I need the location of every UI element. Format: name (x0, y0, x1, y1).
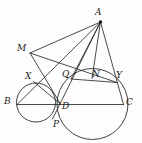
point-label-N: N (92, 70, 100, 79)
point-label-B: B (4, 97, 11, 106)
segment-MY (30, 53, 117, 83)
small-circle (17, 83, 56, 122)
point-label-P: P (53, 120, 59, 129)
segment-QY (71, 79, 117, 83)
point-label-Y: Y (116, 71, 122, 80)
segment-XD (34, 82, 61, 105)
segments-group (17, 22, 124, 119)
point-label-A: A (95, 8, 102, 17)
point-label-X: X (25, 72, 31, 81)
point-label-M: M (17, 44, 26, 53)
geometry-figure: AMXQNYBDCP (0, 0, 142, 143)
vertex-dot-A (99, 20, 102, 23)
segment-MD (30, 53, 61, 104)
point-label-D: D (62, 102, 69, 111)
vertex-dots-group (99, 20, 102, 23)
point-label-Q: Q (62, 70, 69, 79)
point-label-C: C (126, 98, 133, 107)
segment-AC (101, 22, 124, 105)
segment-AM (30, 22, 101, 53)
